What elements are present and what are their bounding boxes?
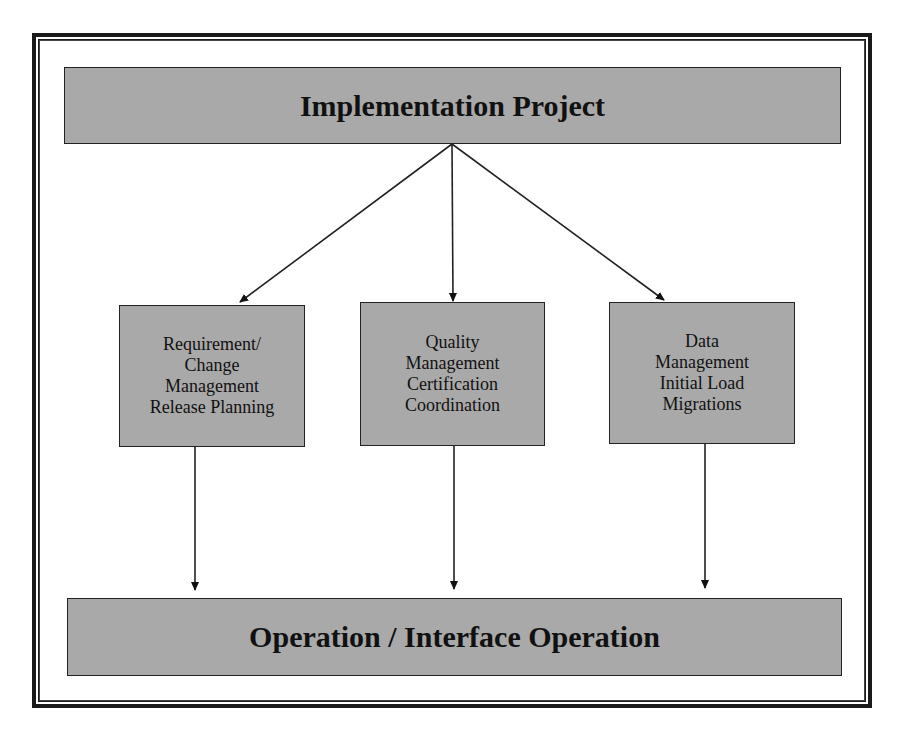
box-line: Change [150,355,274,376]
arrow-top-to-requirement [240,144,452,302]
box-line: Migrations [655,394,749,415]
data-management-box: Data Management Initial Load Migrations [609,302,795,444]
box-line: Data [655,331,749,352]
box-line: Management [150,376,274,397]
box-line: Release Planning [150,397,274,418]
box-line: Certification [405,374,500,395]
quality-management-box: Quality Management Certification Coordin… [360,302,545,446]
box-line: Initial Load [655,373,749,394]
requirement-change-box: Requirement/ Change Management Release P… [119,305,305,447]
box-line: Quality [405,332,500,353]
arrow-top-to-quality [452,144,453,301]
implementation-project-bar: Implementation Project [64,67,841,144]
operation-bar: Operation / Interface Operation [67,598,842,676]
box-line: Management [405,353,500,374]
implementation-project-label: Implementation Project [300,89,605,123]
box-line: Management [655,352,749,373]
arrow-top-to-data [452,144,664,300]
operation-label: Operation / Interface Operation [249,620,660,654]
box-line: Coordination [405,395,500,416]
box-line: Requirement/ [150,334,274,355]
